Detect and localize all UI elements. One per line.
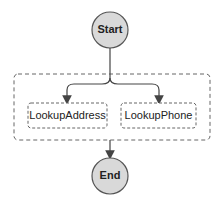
branch-edge-left: [67, 78, 110, 100]
end-label: End: [92, 169, 128, 181]
lookup-phone-label: LookupPhone: [121, 109, 196, 121]
branch-edge-right: [110, 78, 159, 100]
lookup-address-label: LookupAddress: [28, 109, 107, 121]
start-label: Start: [92, 23, 128, 35]
